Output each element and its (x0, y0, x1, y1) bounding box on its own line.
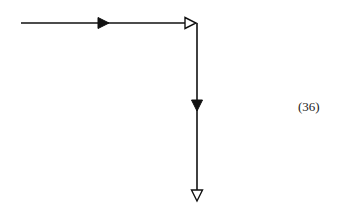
hollow-arrow-down-icon (192, 190, 203, 201)
equation-number: (36) (298, 99, 320, 115)
arrow-diagram (0, 0, 337, 215)
hollow-arrow-right-icon (185, 18, 196, 29)
filled-arrow-down-icon (192, 100, 203, 111)
filled-arrow-right-icon (98, 18, 109, 29)
